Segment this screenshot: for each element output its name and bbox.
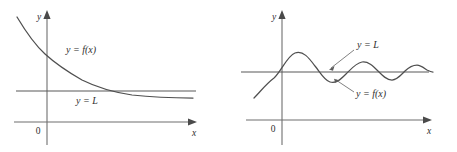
origin-label: 0	[36, 126, 41, 136]
figure-container: x y 0 y = f(x) y = L x y 0 y = L	[0, 0, 457, 152]
x-axis-label: x	[426, 126, 432, 136]
x-axis-label: x	[191, 128, 197, 138]
asymptote-leader-arrow-icon	[329, 66, 335, 71]
asymptote-label: y = L	[356, 39, 379, 50]
y-axis-arrow-icon	[278, 10, 285, 19]
origin-label: 0	[271, 124, 276, 134]
x-axis-arrow-icon	[423, 116, 432, 123]
function-curve	[17, 17, 193, 98]
monotonic-decay-graph: x y 0 y = f(x) y = L	[0, 0, 229, 152]
asymptote-leader-line	[331, 50, 354, 68]
function-label: y = f(x)	[65, 44, 97, 56]
function-curve	[254, 52, 433, 98]
asymptote-label: y = L	[75, 95, 98, 106]
damped-oscillation-graph: x y 0 y = L y = f(x)	[229, 0, 457, 152]
y-axis-arrow-icon	[43, 10, 50, 19]
y-axis-label: y	[271, 12, 277, 22]
y-axis-label: y	[36, 12, 42, 22]
x-axis-arrow-icon	[188, 118, 197, 125]
function-label: y = f(x)	[355, 88, 387, 100]
function-leader-line	[336, 80, 354, 92]
